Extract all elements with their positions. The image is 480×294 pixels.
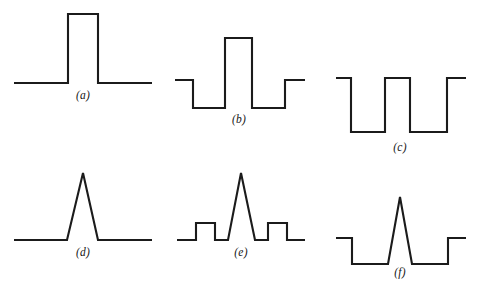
panel-label-e: (e) [234, 246, 247, 258]
panel-label-d: (d) [76, 246, 90, 258]
panel-label-b: (b) [232, 113, 246, 125]
figure-root: (a)(b)(c)(d)(e)(f) [0, 0, 480, 294]
panel-label-c: (c) [393, 141, 406, 153]
panel-label-f: (f) [394, 266, 405, 278]
panel-label-a: (a) [76, 89, 90, 101]
